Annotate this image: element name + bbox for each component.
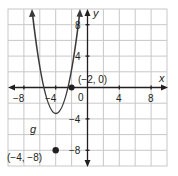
- point-x-intercept: [69, 85, 75, 91]
- origin-label: 0: [78, 92, 84, 103]
- y-tick-label: 8: [75, 20, 81, 31]
- arrow-up-left-icon: [29, 9, 36, 17]
- coordinate-plane: −8 −4 0 4 8 8 4 −4 −8 x y (−2, 0) (−4, −…: [0, 0, 178, 176]
- y-tick-label: −4: [69, 114, 81, 125]
- point-vertex: [53, 147, 59, 153]
- x-tick-label: −4: [45, 93, 57, 104]
- x-tick-label: −8: [13, 93, 25, 104]
- vertex-label: (−4, −8): [7, 152, 42, 163]
- x-tick-label: 8: [148, 93, 154, 104]
- intercept-label: (−2, 0): [78, 74, 107, 85]
- arrow-up-right-icon: [77, 9, 84, 17]
- y-tick-label: −8: [69, 145, 81, 156]
- x-tick-label: 4: [116, 93, 122, 104]
- y-tick-label: 4: [75, 51, 81, 62]
- x-axis-label: x: [158, 72, 165, 84]
- function-label-g: g: [30, 123, 37, 135]
